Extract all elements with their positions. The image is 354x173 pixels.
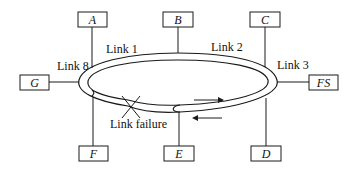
node-label-F: F [89, 147, 98, 161]
node-label-B: B [174, 13, 182, 27]
link-label-8: Link 8 [57, 59, 89, 73]
node-label-A: A [88, 13, 97, 27]
inner-ring [88, 60, 268, 105]
node-D: D [251, 146, 281, 161]
ring-network-diagram: A B C G FS F E D Link 1 Link 2 Link 3 Li… [0, 0, 354, 173]
node-F: F [79, 146, 108, 161]
outer-ring [79, 53, 278, 112]
dual-ring [79, 53, 278, 112]
node-A: A [78, 12, 107, 27]
link-label-1: Link 1 [106, 42, 138, 56]
direction-arrow-right-icon [194, 97, 224, 103]
node-label-E: E [174, 147, 183, 161]
node-label-FS: FS [316, 76, 330, 90]
node-label-C: C [261, 13, 270, 27]
link-failure-label: Link failure [110, 117, 167, 131]
node-FS: FS [309, 75, 338, 90]
node-label-D: D [261, 147, 271, 161]
direction-arrow-left-icon [192, 115, 222, 121]
node-C: C [250, 12, 280, 27]
node-connectors [49, 27, 309, 146]
link-failure-x-icon [122, 96, 140, 118]
wraparound-loop-left [92, 90, 94, 96]
node-label-G: G [30, 76, 39, 90]
node-E: E [164, 146, 194, 161]
link-label-2: Link 2 [211, 40, 243, 54]
node-B: B [163, 12, 193, 27]
wraparound-loop [173, 105, 180, 112]
node-G: G [20, 75, 49, 90]
link-label-3: Link 3 [277, 58, 309, 72]
